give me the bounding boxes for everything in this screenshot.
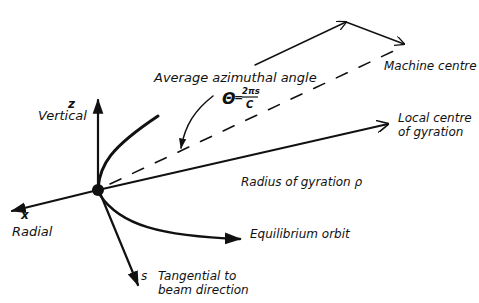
label-equilibrium-orbit: Equilibrium orbit [250,227,351,241]
dashed-line-to-machine-centre [110,48,400,184]
label-average-azimuthal-angle: Average azimuthal angle [153,70,317,85]
line-to-machine-centre [346,22,404,44]
azimuthal-angle-pointer [181,96,213,148]
s-axis-arrow [100,193,138,285]
label-radial: Radial [12,224,53,239]
label-local-centre-line1: Local centre [398,111,472,125]
label-formula-numerator: 2πs [242,86,260,96]
label-radius-of-gyration: Radius of gyration ρ [241,175,363,189]
orbit-curve-upper [98,116,158,188]
upper-line [255,22,346,65]
origin-point [92,184,104,196]
diagram-canvas: Average azimuthal angle Θ = 2πs C Machin… [0,0,479,303]
label-machine-centre: Machine centre [384,59,477,73]
label-s: s [141,269,147,283]
label-x: x [20,208,30,222]
equilibrium-orbit-curve [100,195,240,239]
label-local-centre-line2: of gyration [398,125,463,139]
label-tangential-line2: beam direction [158,283,249,297]
label-vertical: Vertical [38,108,87,123]
label-formula-denominator: C [246,99,254,110]
label-tangential-line1: Tangential to [158,269,236,283]
